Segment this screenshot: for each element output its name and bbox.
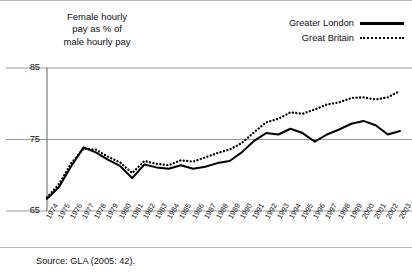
bottom-rule <box>0 247 412 248</box>
series-line-greater-london <box>47 121 400 199</box>
y-axis-tick-label-75: 75 <box>18 134 40 144</box>
y-axis-tick-label-85: 85 <box>18 62 40 72</box>
plot-svg <box>0 0 412 278</box>
plot-area: 6575851974197519761977197819791980198119… <box>0 0 412 278</box>
y-axis-tick-label-65: 65 <box>18 205 40 215</box>
series-line-great-britain <box>47 91 400 198</box>
source-note: Source: GLA (2005: 42). <box>36 256 135 266</box>
figure: Female hourly pay as % of male hourly pa… <box>0 0 412 278</box>
